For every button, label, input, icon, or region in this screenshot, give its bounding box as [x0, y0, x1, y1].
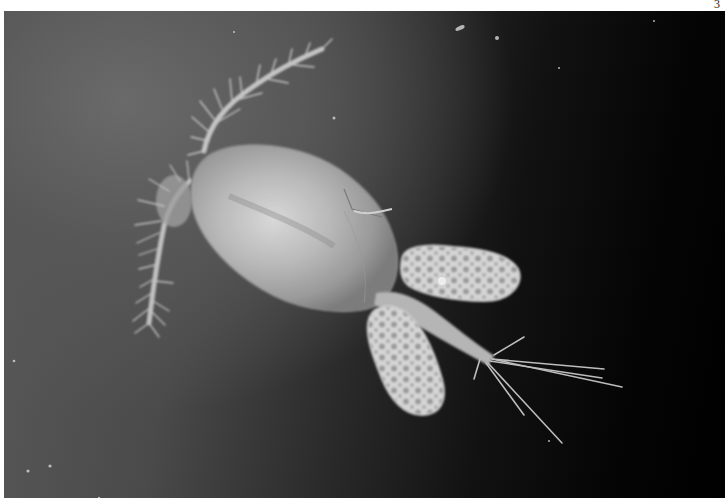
copepod-body — [191, 145, 398, 312]
antenna-lower — [133, 161, 192, 337]
egg-sac-upper — [401, 246, 520, 302]
antenna-upper — [188, 39, 332, 155]
caudal-setae — [474, 337, 622, 443]
page-number: 3 — [714, 0, 720, 10]
copepod-illustration — [4, 11, 725, 498]
copepod-photo: Grayscale micrograph of a female copepod… — [4, 11, 725, 498]
